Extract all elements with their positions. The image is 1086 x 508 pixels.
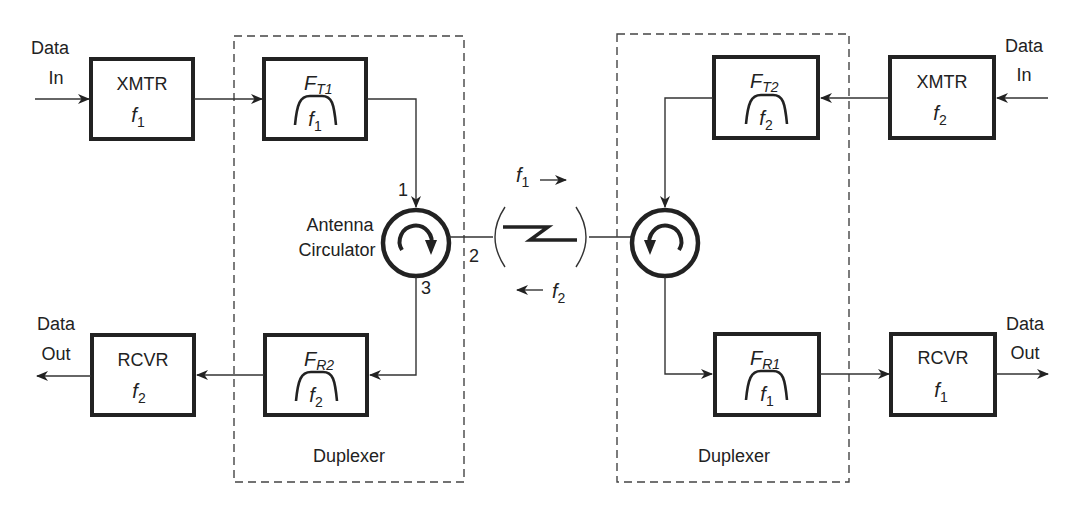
svg-text:f2: f2 — [552, 280, 566, 306]
ft2-to-circulator-wire — [665, 98, 713, 207]
svg-text:Data: Data — [31, 38, 70, 58]
svg-text:In: In — [48, 68, 63, 88]
port-1-label: 1 — [398, 180, 408, 200]
left-antenna-circulator — [383, 210, 449, 276]
svg-text:Circulator: Circulator — [298, 240, 375, 260]
svg-text:XMTR: XMTR — [917, 72, 968, 92]
svg-text:RCVR: RCVR — [117, 350, 168, 370]
left-duplexer-label: Duplexer — [313, 446, 385, 466]
port-3-label: 3 — [421, 278, 431, 298]
left-data-in: Data In — [31, 38, 70, 88]
svg-text:Out: Out — [1010, 343, 1039, 363]
reverse-frequency-label: f2 — [517, 280, 566, 306]
svg-text:Data: Data — [1005, 36, 1044, 56]
right-duplexer-label: Duplexer — [698, 446, 770, 466]
port-2-label: 2 — [469, 246, 479, 266]
radio-link-icon — [503, 227, 577, 240]
right-data-out: Data Out — [1006, 314, 1045, 363]
right-antenna-circulator — [632, 210, 698, 276]
svg-text:Data: Data — [1006, 314, 1045, 334]
forward-frequency-label: f1 — [516, 164, 566, 190]
tx-filter-ft2: FT2 f2 — [714, 57, 818, 138]
left-receiver-block: RCVR f2 — [92, 335, 194, 415]
circulator-label: Antenna Circulator — [298, 215, 375, 260]
duplex-link-diagram: Duplexer Data In XMTR f1 FT1 f1 1 2 3 An… — [0, 0, 1086, 508]
left-data-out: Data Out — [37, 314, 76, 364]
svg-text:f1: f1 — [516, 164, 530, 190]
rx-filter-fr1: FR1 f1 — [715, 334, 819, 415]
ft1-to-circulator-wire — [367, 99, 416, 207]
svg-text:In: In — [1016, 65, 1031, 85]
right-data-in: Data In — [1005, 36, 1044, 85]
svg-text:Out: Out — [41, 344, 70, 364]
svg-text:XMTR: XMTR — [117, 74, 168, 94]
svg-text:Antenna: Antenna — [306, 215, 374, 235]
right-receiver-block: RCVR f1 — [891, 334, 995, 415]
circulator-to-fr1-wire — [665, 277, 712, 374]
svg-text:RCVR: RCVR — [917, 348, 968, 368]
circulator-to-fr2-wire — [370, 277, 416, 375]
left-transmitter-block: XMTR f1 — [91, 59, 193, 139]
svg-text:Data: Data — [37, 314, 76, 334]
right-paren — [576, 207, 586, 267]
left-paren — [495, 207, 505, 267]
right-transmitter-block: XMTR f2 — [890, 57, 994, 138]
rx-filter-fr2: FR2 f2 — [265, 335, 367, 415]
tx-filter-ft1: FT1 f1 — [264, 59, 366, 139]
